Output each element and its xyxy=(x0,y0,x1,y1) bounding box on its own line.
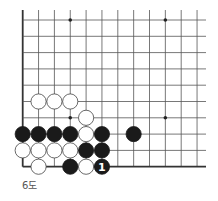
black-stone-icon xyxy=(94,127,109,142)
white-stone xyxy=(47,143,62,158)
white-stone xyxy=(47,94,62,109)
white-stone-icon xyxy=(47,143,62,158)
black-stone-icon xyxy=(31,127,46,142)
black-stone xyxy=(79,143,94,158)
black-stone-icon xyxy=(63,159,78,174)
board-grid xyxy=(23,10,206,167)
black-stone xyxy=(15,127,30,142)
white-stone-icon xyxy=(47,94,62,109)
star-point-icon xyxy=(68,116,72,120)
black-stone-icon xyxy=(79,143,94,158)
white-stone xyxy=(31,159,46,174)
black-stone xyxy=(47,127,62,142)
white-stone-icon xyxy=(31,159,46,174)
star-point-icon xyxy=(164,18,168,22)
black-stone xyxy=(94,127,109,142)
white-stone xyxy=(31,94,46,109)
white-stone xyxy=(63,143,78,158)
white-stone xyxy=(15,143,30,158)
star-point-icon xyxy=(68,18,72,22)
black-stone-icon xyxy=(126,127,141,142)
black-stone xyxy=(31,127,46,142)
white-stone-icon xyxy=(79,159,94,174)
go-board-diagram: 1 xyxy=(0,0,218,201)
black-stone: 1 xyxy=(94,159,109,174)
white-stone xyxy=(79,159,94,174)
white-stone-icon xyxy=(15,143,30,158)
white-stone-icon xyxy=(79,127,94,142)
white-stone-icon xyxy=(63,143,78,158)
white-stone xyxy=(63,94,78,109)
black-stone xyxy=(94,143,109,158)
white-stone-icon xyxy=(79,110,94,125)
black-stone xyxy=(63,159,78,174)
diagram-caption: 6도 xyxy=(22,180,37,192)
black-stone-icon xyxy=(63,127,78,142)
black-stone-icon xyxy=(94,143,109,158)
white-stone-icon xyxy=(63,94,78,109)
black-stone-icon xyxy=(15,127,30,142)
white-stone xyxy=(79,127,94,142)
white-stone xyxy=(79,110,94,125)
white-stone-icon xyxy=(31,94,46,109)
black-stone xyxy=(63,127,78,142)
star-point-icon xyxy=(164,116,168,120)
black-stone-icon xyxy=(47,127,62,142)
move-number-label: 1 xyxy=(98,161,106,174)
white-stone xyxy=(31,143,46,158)
black-stone xyxy=(126,127,141,142)
white-stone-icon xyxy=(31,143,46,158)
